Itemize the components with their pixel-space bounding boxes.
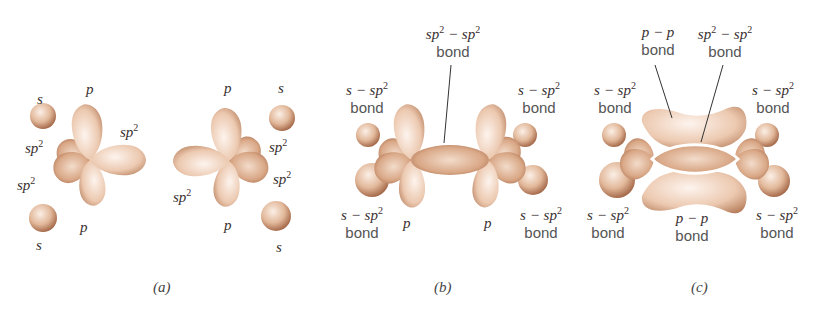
leader-line-b xyxy=(444,65,451,143)
label-sp2: sp2 xyxy=(25,139,43,156)
label-s-sp2-bond-top-left: s − sp2 bond xyxy=(332,80,402,117)
label-p: p xyxy=(484,216,492,231)
pi-bond-upper-lobe xyxy=(642,107,747,149)
panel-a-right-orbitals xyxy=(173,105,295,231)
sp2-sp2-bond-lobe xyxy=(411,145,489,175)
label-s-sp2-bond-bottom-right-c: s − sp2 bond xyxy=(742,205,812,242)
label-s-sp2-bond-top-right: s − sp2 bond xyxy=(504,80,574,117)
label-p: p xyxy=(80,220,88,235)
pi-bond-lower-lobe xyxy=(642,171,747,213)
label-p-p-bond-bottom: p − p bond xyxy=(664,210,720,245)
label-p: p xyxy=(224,81,232,96)
label-p-p-bond-top: p − p bond xyxy=(630,24,686,59)
label-sp2: sp2 xyxy=(120,123,138,140)
label-p: p xyxy=(86,82,94,97)
label-p: p xyxy=(224,218,232,233)
caption-a: (a) xyxy=(153,279,171,296)
label-s-sp2-bond-top-left-c: s − sp2 bond xyxy=(580,80,650,117)
label-s: s xyxy=(276,240,282,255)
label-s-sp2-bond-bottom-left-c: s − sp2 bond xyxy=(573,205,643,242)
label-p: p xyxy=(403,216,411,231)
label-s-sp2-bond-top-right-c: s − sp2 bond xyxy=(738,80,808,117)
sp2-sp2-bond-lobe-c xyxy=(652,145,738,174)
caption-c: (c) xyxy=(691,279,708,296)
label-sp2-sp2-bond: sp2 − sp2 bond xyxy=(408,24,498,61)
label-s: s xyxy=(37,92,43,107)
label-s-sp2-bond-bottom-right: s − sp2 bond xyxy=(506,205,576,242)
caption-b: (b) xyxy=(434,279,452,296)
label-sp2: sp2 xyxy=(173,188,191,205)
label-s: s xyxy=(278,81,284,96)
s-orbital-top-left xyxy=(30,103,56,129)
s-orbital-bottom-right xyxy=(261,201,291,231)
s-orbital-top-right xyxy=(269,105,295,131)
label-sp2-sp2-bond-c: sp2 − sp2 bond xyxy=(682,24,768,61)
label-sp2: sp2 xyxy=(17,176,35,193)
s-orbital-bottom-left xyxy=(29,204,57,232)
label-sp2: sp2 xyxy=(273,170,291,187)
label-s-sp2-bond-bottom-left: s − sp2 bond xyxy=(327,205,397,242)
label-sp2: sp2 xyxy=(269,138,287,155)
label-s: s xyxy=(36,238,42,253)
